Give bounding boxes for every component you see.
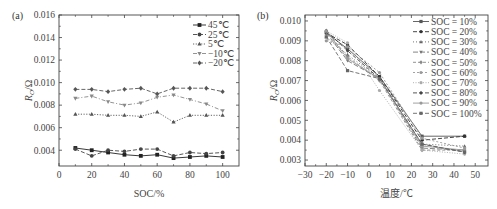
diamond-marker-icon [90,87,94,92]
legend-item: SOC = 50% [413,58,477,68]
circle-marker-icon [378,71,381,74]
diamond-marker-icon [188,86,192,91]
legend-item: −20℃ [193,58,234,68]
y-tick-label: 0.008 [34,100,56,110]
legend-item: SOC = 30% [413,37,477,47]
circle-marker-icon [420,149,423,152]
circle-marker-icon [325,29,328,32]
triangle-down-marker-icon [221,109,225,113]
diamond-marker-icon [155,91,159,96]
legend-item: 25℃ [193,30,229,40]
circle-marker-icon [172,154,176,158]
triangle-up-marker-icon [204,113,208,117]
square-marker-icon [155,153,159,157]
diamond-marker-icon [221,89,225,94]
legend-label: SOC = 30% [431,37,477,47]
triangle-up-marker-icon [106,113,110,117]
y-axis-title-symbol: R [268,95,279,102]
legend-label: 25℃ [208,30,229,40]
legend-label: SOC = 90% [431,98,477,108]
circle-marker-icon [325,39,328,42]
diamond-marker-icon [204,86,208,91]
y-axis-title-symbol: R [23,95,34,102]
circle-marker-icon [346,57,349,60]
y-tick-label: 0.005 [280,116,302,126]
x-tick-label: −20 [319,170,334,180]
triangle-up-marker-icon [73,112,77,116]
legend-label: SOC = 80% [431,88,477,98]
diamond-marker-icon [106,89,110,94]
circle-marker-icon [198,33,202,37]
chart-panel-a: 0204060801000.0040.0060.0080.0100.0120.0… [12,10,239,199]
diamond-marker-icon [73,87,77,92]
x-tick-label: 80 [185,170,195,180]
legend-item: SOC = 40% [413,47,477,57]
triangle-down-marker-icon [106,100,110,104]
series-line [75,88,222,94]
square-marker-icon [325,35,328,38]
legend-item: SOC = 20% [413,27,477,37]
circle-marker-icon [221,151,225,155]
square-marker-icon [346,69,349,72]
data-series [73,86,224,97]
data-series [73,93,224,113]
square-marker-icon [420,143,423,146]
circle-marker-icon [204,152,208,156]
circle-marker-icon [419,102,422,105]
legend-label: 5℃ [208,39,224,49]
triangle-up-marker-icon [221,113,225,117]
x-axis-title: SOC/% [134,188,165,199]
legend-item: −10℃ [193,49,234,59]
x-tick-label: 20 [87,170,97,180]
circle-marker-icon [419,30,422,33]
y-tick-label: 0.016 [34,10,56,20]
y-axis-title-unit: /Ω [268,80,279,90]
x-tick-label: −30 [298,170,313,180]
square-marker-icon [198,23,202,27]
series-line [75,95,222,111]
y-tick-label: 0.009 [280,36,302,46]
legend-item: SOC = 90% [413,98,477,108]
x-tick-label: 0 [366,170,371,180]
x-axis-title: 温度/℃ [380,187,413,199]
x-tick-label: 30 [428,170,438,180]
legend-item: SOC = 60% [413,68,477,78]
circle-marker-icon [73,147,77,151]
triangle-down-marker-icon [122,104,126,108]
diamond-marker-icon [122,87,126,92]
legend-item: SOC = 100% [413,109,482,119]
diamond-marker-icon [419,60,423,64]
circle-marker-icon [155,147,159,151]
circle-marker-icon [419,71,422,74]
square-marker-icon [139,154,143,158]
square-marker-icon [221,155,225,159]
circle-marker-icon [346,45,349,48]
y-tick-label: 0.007 [280,76,302,86]
triangle-up-marker-icon [90,112,94,116]
diamond-marker-icon [171,86,175,91]
y-tick-label: 0.014 [34,33,56,43]
x-tick-label: 60 [152,170,162,180]
square-marker-icon [463,150,466,153]
x-tick-label: 0 [57,170,62,180]
square-marker-icon [378,77,381,80]
x-tick-label: 10 [385,170,395,180]
circle-marker-icon [419,81,422,84]
square-marker-icon [419,20,422,23]
triangle-up-marker-icon [197,42,201,46]
y-tick-label: 0.006 [34,123,56,133]
x-tick-label: 50 [470,170,480,180]
legend-item: 45℃ [193,20,229,30]
y-tick-label: 0.010 [280,16,302,26]
triangle-up-marker-icon [155,110,159,114]
data-series [73,146,224,160]
x-tick-label: 100 [216,170,231,180]
legend-item: SOC = 80% [413,88,477,98]
y-tick-label: 0.008 [280,56,302,66]
y-axis-title-unit: /Ω [23,80,34,90]
y-tick-label: 0.004 [34,146,56,156]
circle-marker-icon [346,41,349,44]
triangle-down-marker-icon [197,52,201,56]
legend-label: SOC = 20% [431,27,477,37]
triangle-down-marker-icon [73,97,77,101]
